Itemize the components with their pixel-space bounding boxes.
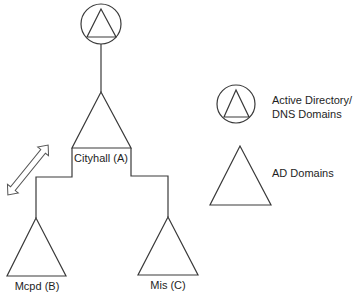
domain-c-triangle-icon [138,217,198,275]
root-dns-domain-icon [81,4,121,44]
domain-diagram: Cityhall (A) Mcpd (B) Mis (C) Active Dir… [0,0,357,294]
trust-double-arrow-icon [2,141,53,200]
domain-a-label: Cityhall (A) [74,152,128,164]
legend-ad-label: AD Domains [272,167,334,179]
legend: Active Directory/ DNS Domains AD Domains [210,85,353,205]
domain-a-triangle-icon [72,92,131,148]
domain-b-label: Mcpd (B) [15,280,60,292]
domain-b-triangle-icon [7,218,66,276]
legend-dns-label-line1: Active Directory/ [272,94,353,106]
legend-dns-label-line2: DNS Domains [272,108,342,120]
legend-ad-domain-triangle-icon [210,146,271,205]
domain-c-label: Mis (C) [150,279,185,291]
legend-dns-domain-icon [217,85,255,123]
